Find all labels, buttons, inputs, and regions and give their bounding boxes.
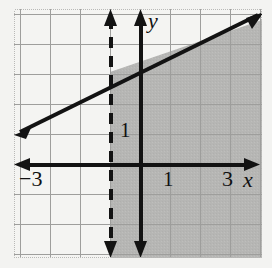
x-tick-label-3: 3	[222, 168, 233, 190]
x-tick-label-neg3: −3	[19, 168, 42, 190]
x-axis-label: x	[243, 169, 253, 191]
graph-canvas	[0, 0, 272, 268]
coordinate-graph-figure: y x 1 −3 1 3	[0, 0, 272, 268]
x-tick-label-1: 1	[163, 169, 174, 190]
y-axis-label: y	[148, 10, 158, 32]
y-tick-label-1: 1	[120, 120, 131, 141]
